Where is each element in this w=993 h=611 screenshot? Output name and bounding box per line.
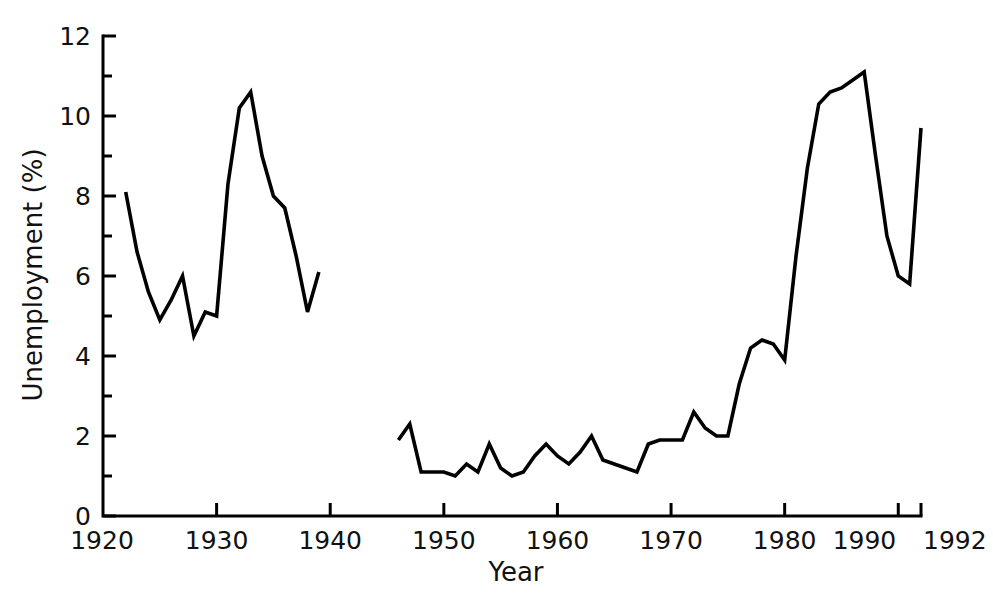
- y-tick-label: 4: [75, 342, 91, 371]
- series-line: [398, 72, 921, 476]
- axis-spine: [103, 36, 921, 516]
- chart-canvas: 192019301940195019601970198019901992 024…: [0, 0, 993, 611]
- y-tick-label: 10: [59, 102, 91, 131]
- x-axis-tick-labels: 192019301940195019601970198019901992: [70, 526, 986, 555]
- y-tick-label: 8: [75, 182, 91, 211]
- x-tick-label: 1970: [639, 526, 703, 555]
- x-axis-title: Year: [487, 557, 543, 587]
- unemployment-line-chart: 192019301940195019601970198019901992 024…: [0, 0, 993, 611]
- x-tick-label: 1960: [526, 526, 590, 555]
- data-series: [126, 72, 921, 476]
- x-tick-label: 1930: [185, 526, 249, 555]
- x-tick-label: 1950: [412, 526, 476, 555]
- x-tick-label: 1990: [833, 526, 897, 555]
- x-tick-label: 1940: [298, 526, 362, 555]
- axes: [103, 36, 921, 516]
- y-axis-tick-labels: 024681012: [59, 22, 91, 531]
- axis-ticks: [103, 36, 921, 516]
- series-line: [126, 92, 319, 336]
- y-tick-label: 6: [75, 262, 91, 291]
- x-tick-label: 1992: [923, 526, 987, 555]
- y-tick-label: 12: [59, 22, 91, 51]
- y-tick-label: 0: [75, 502, 91, 531]
- x-tick-label: 1980: [753, 526, 817, 555]
- y-tick-label: 2: [75, 422, 91, 451]
- y-axis-title: Unemployment (%): [18, 148, 48, 401]
